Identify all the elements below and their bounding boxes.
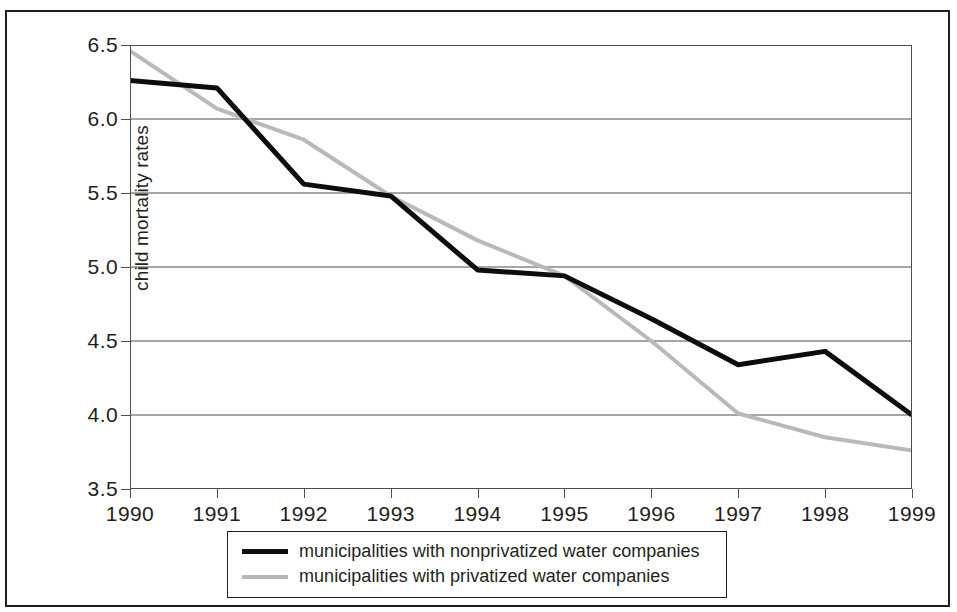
y-tick-label: 6.5 xyxy=(88,33,118,57)
x-tick-mark xyxy=(912,489,913,498)
y-tick-mark xyxy=(121,45,130,46)
legend-line-swatch xyxy=(242,549,288,554)
x-tick-mark xyxy=(564,489,565,498)
series-line xyxy=(130,51,912,451)
y-tick-mark xyxy=(121,193,130,194)
y-tick-label: 6.0 xyxy=(88,107,118,131)
legend-label: municipalities with nonprivatized water … xyxy=(299,541,700,562)
y-tick-label: 3.5 xyxy=(88,477,118,501)
x-tick-label: 1991 xyxy=(193,502,241,526)
y-axis-title: child mortality rates xyxy=(131,58,153,358)
x-tick-mark xyxy=(825,489,826,498)
series-line xyxy=(130,81,912,415)
legend-line-swatch xyxy=(242,575,288,579)
y-tick-mark xyxy=(121,489,130,490)
x-tick-label: 1993 xyxy=(366,502,414,526)
plot-area: 3.54.04.55.05.56.06.5 199019911992199319… xyxy=(130,45,912,489)
x-tick-label: 1999 xyxy=(888,502,936,526)
x-tick-label: 1990 xyxy=(106,502,154,526)
x-tick-mark xyxy=(478,489,479,498)
plot-canvas xyxy=(130,45,912,489)
chart-legend: municipalities with nonprivatized water … xyxy=(227,531,727,598)
legend-entry: municipalities with nonprivatized water … xyxy=(242,539,712,564)
y-tick-label: 5.5 xyxy=(88,181,118,205)
x-tick-label: 1996 xyxy=(627,502,675,526)
gridlines xyxy=(130,45,912,489)
series-lines xyxy=(130,51,912,451)
legend-label: municipalities with privatized water com… xyxy=(299,566,669,587)
y-tick-label: 5.0 xyxy=(88,255,118,279)
y-tick-label: 4.5 xyxy=(88,329,118,353)
x-tick-label: 1998 xyxy=(801,502,849,526)
chart-figure: 3.54.04.55.05.56.06.5 199019911992199319… xyxy=(0,0,957,612)
y-tick-label: 4.0 xyxy=(88,403,118,427)
y-tick-mark xyxy=(121,267,130,268)
y-tick-mark xyxy=(121,119,130,120)
y-tick-mark xyxy=(121,415,130,416)
x-tick-mark xyxy=(217,489,218,498)
x-tick-mark xyxy=(130,489,131,498)
x-tick-label: 1997 xyxy=(714,502,762,526)
x-tick-mark xyxy=(391,489,392,498)
x-tick-mark xyxy=(651,489,652,498)
x-tick-mark xyxy=(738,489,739,498)
x-tick-label: 1995 xyxy=(540,502,588,526)
legend-entry: municipalities with privatized water com… xyxy=(242,564,712,589)
y-tick-mark xyxy=(121,341,130,342)
x-tick-mark xyxy=(304,489,305,498)
x-tick-label: 1994 xyxy=(453,502,501,526)
x-tick-label: 1992 xyxy=(280,502,328,526)
